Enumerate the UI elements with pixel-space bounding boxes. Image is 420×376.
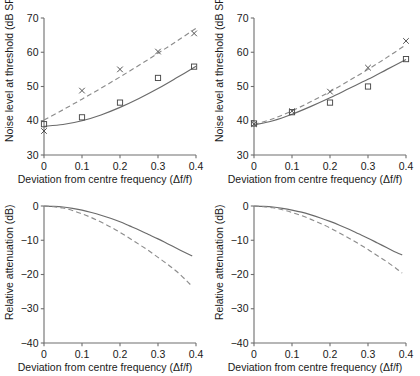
y-tick-label: 30 (27, 149, 39, 161)
dashed-curve (44, 206, 192, 286)
x-tick-label: 0.2 (323, 160, 338, 172)
y-tick-labels: 7060504030 (237, 12, 249, 161)
square-marker (327, 100, 332, 105)
y-axis-title-group: Noise level at threshold (dB SPL) (213, 0, 225, 142)
x-tick-label: 0.2 (113, 160, 128, 172)
solid-curve (254, 206, 402, 255)
y-tick-label: 70 (27, 12, 39, 24)
y-tick-label: 60 (237, 46, 249, 58)
y-axis-title: Noise level at threshold (dB SPL) (3, 0, 15, 142)
fit-curves (44, 28, 196, 126)
x-tick-label: 0.2 (323, 348, 338, 360)
y-tick-label: 50 (237, 80, 249, 92)
axis-lines (251, 18, 406, 158)
cross-marker (403, 38, 409, 44)
filter-curves (254, 206, 402, 273)
y-tick-label: −20 (21, 268, 39, 280)
data-markers (251, 38, 409, 127)
panel-top-left: Noise level at threshold (dB SPL) 706050… (0, 0, 210, 188)
x-tick-label: 0.4 (399, 160, 414, 172)
x-tick-label: 0.4 (189, 348, 204, 360)
solid-curve (44, 66, 196, 126)
x-axis-title: Deviation from centre frequency (Δf/f) (228, 361, 403, 373)
square-marker (117, 100, 122, 105)
y-tick-label: 40 (27, 114, 39, 126)
cross-marker (117, 67, 123, 73)
panel-bottom-left-svg: Relative attenuation (dB) 0−10−20−30−40 … (0, 188, 210, 376)
x-tick-label: 0 (41, 348, 47, 360)
y-axis-title: Noise level at threshold (dB SPL) (213, 0, 225, 142)
y-axis-title: Relative attenuation (dB) (3, 204, 15, 320)
x-tick-label: 0.4 (189, 160, 204, 172)
y-tick-label: −20 (231, 268, 249, 280)
fit-curves (254, 45, 406, 125)
x-tick-label: 0 (251, 160, 257, 172)
y-tick-label: 50 (27, 80, 39, 92)
square-marker (365, 84, 370, 89)
y-tick-label: 30 (237, 149, 249, 161)
y-tick-label: 0 (33, 200, 39, 212)
filter-curves (44, 206, 192, 286)
figure-panel-grid: Noise level at threshold (dB SPL) 706050… (0, 0, 420, 376)
dashed-curve (254, 45, 406, 125)
y-tick-label: 40 (237, 114, 249, 126)
y-tick-label: 60 (27, 46, 39, 58)
y-tick-label: −10 (21, 234, 39, 246)
x-tick-label: 0.2 (113, 348, 128, 360)
x-axis-title: Deviation from centre frequency (Δf/f) (18, 173, 193, 185)
solid-curve (44, 206, 192, 256)
x-tick-label: 0 (251, 348, 257, 360)
y-tick-labels: 0−10−20−30−40 (21, 200, 39, 349)
panel-bottom-right: Relative attenuation (dB) 0−10−20−30−40 … (210, 188, 420, 376)
x-tick-label: 0.3 (361, 348, 376, 360)
y-tick-label: −40 (21, 337, 39, 349)
y-tick-label: −30 (21, 302, 39, 314)
y-tick-label: −30 (231, 302, 249, 314)
x-tick-label: 0.1 (75, 348, 90, 360)
x-tick-labels: 00.10.20.30.4 (41, 348, 203, 360)
x-axis-title: Deviation from centre frequency (Δf/f) (228, 173, 403, 185)
x-tick-label: 0.1 (75, 160, 90, 172)
cross-marker (79, 88, 85, 94)
y-tick-labels: 7060504030 (27, 12, 39, 161)
x-tick-label: 0.4 (399, 348, 414, 360)
y-tick-label: −10 (231, 234, 249, 246)
y-axis-title-group: Noise level at threshold (dB SPL) (3, 0, 15, 142)
y-tick-label: 0 (243, 200, 249, 212)
x-tick-label: 0 (41, 160, 47, 172)
y-axis-title-group: Relative attenuation (dB) (213, 204, 225, 320)
dashed-curve (254, 206, 402, 273)
x-tick-label: 0.1 (285, 160, 300, 172)
square-marker (155, 75, 160, 80)
data-markers (41, 31, 197, 134)
x-tick-label: 0.3 (151, 160, 166, 172)
x-tick-label: 0.3 (151, 348, 166, 360)
cross-marker (191, 31, 197, 37)
y-tick-labels: 0−10−20−30−40 (231, 200, 249, 349)
x-tick-label: 0.1 (285, 348, 300, 360)
panel-bottom-left: Relative attenuation (dB) 0−10−20−30−40 … (0, 188, 210, 376)
panel-top-right-svg: Noise level at threshold (dB SPL) 706050… (210, 0, 420, 188)
dashed-curve (44, 28, 196, 120)
x-axis-title: Deviation from centre frequency (Δf/f) (18, 361, 193, 373)
x-tick-label: 0.3 (361, 160, 376, 172)
y-axis-title-group: Relative attenuation (dB) (3, 204, 15, 320)
y-tick-label: −40 (231, 337, 249, 349)
x-tick-labels: 00.10.20.30.4 (251, 348, 413, 360)
y-axis-title: Relative attenuation (dB) (213, 204, 225, 320)
axis-lines (41, 206, 196, 346)
cross-marker (327, 89, 333, 95)
square-marker (79, 115, 84, 120)
panel-top-right: Noise level at threshold (dB SPL) 706050… (210, 0, 420, 188)
axis-lines (41, 18, 196, 158)
x-tick-labels: 00.10.20.30.4 (251, 160, 413, 172)
y-tick-label: 70 (237, 12, 249, 24)
panel-top-left-svg: Noise level at threshold (dB SPL) 706050… (0, 0, 210, 188)
x-tick-labels: 00.10.20.30.4 (41, 160, 203, 172)
panel-bottom-right-svg: Relative attenuation (dB) 0−10−20−30−40 … (210, 188, 420, 376)
